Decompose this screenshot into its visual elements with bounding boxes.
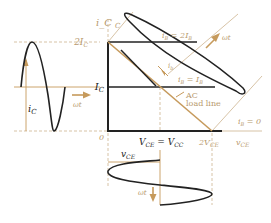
- transistor-load-line-diagram: i_C C 2IC IC 0 VCE = VCC 2VCE vCE iB = 2…: [0, 0, 271, 223]
- tick-ic: IC: [94, 81, 105, 94]
- label-ib-ib: iB = IB: [178, 75, 203, 85]
- tick-2ic: 2IC: [73, 37, 88, 48]
- tick-vce-vcc: VCE = VCC: [139, 137, 184, 148]
- ib-axis-guides: [108, 12, 262, 131]
- label-ic-wave: iC: [28, 103, 37, 116]
- load-line-pointer: [176, 92, 184, 97]
- origin-label: 0: [99, 133, 104, 142]
- label-ib-0: iB = 0: [238, 117, 261, 127]
- label-ic-time: ωt: [73, 101, 82, 109]
- ic-waveform: [21, 42, 65, 131]
- label-ib-time: ωt: [222, 34, 231, 42]
- ic-time-arrow-icon: [83, 92, 91, 99]
- label-load-line: load line: [186, 99, 221, 108]
- ib-ellipse-inner: [121, 50, 156, 86]
- y-axis-label: i_C C: [96, 17, 121, 30]
- label-vce-wave: vCE: [121, 149, 136, 160]
- label-vce-time: ωt: [138, 189, 147, 197]
- x-axis-label: vCE: [236, 138, 250, 148]
- vce-time-arrow-icon: [150, 194, 157, 202]
- tick-2vce: 2VCE: [198, 138, 219, 148]
- label-ib-small: ib: [168, 62, 173, 71]
- ib-axis-center: [168, 14, 238, 74]
